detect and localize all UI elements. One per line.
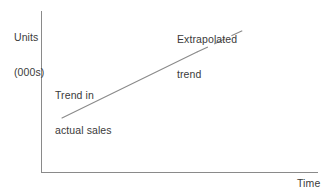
- y-axis-label-line-1: Units: [14, 32, 44, 44]
- trend-extrapolation-chart: Units (000s) Time Trend in actual sales …: [0, 0, 329, 196]
- actual-trend-annotation-line-1: Trend in: [55, 90, 112, 102]
- y-axis-label-line-2: (000s): [14, 67, 44, 79]
- actual-trend-annotation: Trend in actual sales: [55, 67, 112, 159]
- extrapolated-trend-annotation-line-2: trend: [177, 69, 237, 81]
- x-axis-label: Time: [297, 178, 320, 190]
- actual-trend-annotation-line-2: actual sales: [55, 125, 112, 137]
- extrapolated-trend-annotation-line-1: Extrapolated: [177, 34, 237, 46]
- chart-canvas: [0, 0, 329, 196]
- extrapolated-trend-annotation: Extrapolated trend: [177, 11, 237, 103]
- y-axis-label: Units (000s): [14, 9, 44, 101]
